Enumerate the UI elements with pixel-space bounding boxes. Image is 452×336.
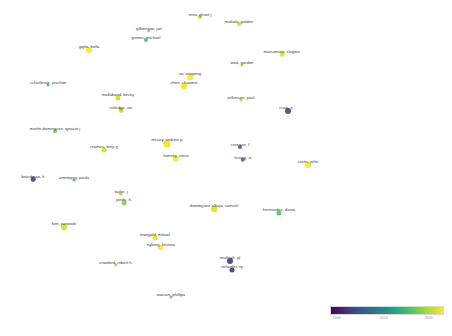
author-node[interactable] bbox=[86, 47, 92, 53]
author-node[interactable] bbox=[53, 129, 57, 133]
author-node[interactable] bbox=[47, 84, 50, 87]
author-node[interactable] bbox=[102, 148, 107, 153]
author-node[interactable] bbox=[31, 177, 36, 182]
network-map-canvas: rena, ghunt jmakala, goldengilbertson, j… bbox=[0, 0, 452, 336]
author-node[interactable] bbox=[239, 98, 242, 101]
author-node[interactable] bbox=[114, 263, 117, 266]
author-node[interactable] bbox=[170, 296, 173, 299]
author-node[interactable] bbox=[187, 74, 193, 80]
author-node[interactable] bbox=[153, 236, 158, 241]
author-node[interactable] bbox=[241, 158, 245, 162]
author-node[interactable] bbox=[237, 22, 241, 26]
colorbar-ticks: 200020102020 bbox=[330, 315, 442, 324]
author-node[interactable] bbox=[73, 179, 76, 182]
author-node[interactable] bbox=[211, 206, 217, 212]
colorbar-tick-label: 2000 bbox=[333, 316, 341, 320]
colorbar-gradient bbox=[330, 306, 444, 315]
author-node[interactable] bbox=[122, 201, 127, 206]
author-node[interactable] bbox=[147, 29, 150, 32]
author-node[interactable] bbox=[61, 224, 67, 230]
author-node[interactable] bbox=[280, 52, 285, 57]
author-node[interactable] bbox=[164, 141, 171, 148]
author-node[interactable] bbox=[144, 38, 148, 42]
colorbar-tick-label: 2010 bbox=[380, 316, 388, 320]
author-node[interactable] bbox=[198, 15, 202, 19]
author-node[interactable] bbox=[230, 268, 235, 273]
colorbar-tick-label: 2020 bbox=[425, 316, 433, 320]
author-node[interactable] bbox=[227, 258, 233, 264]
author-node[interactable] bbox=[115, 95, 120, 100]
author-node[interactable] bbox=[119, 192, 122, 195]
year-colorbar-legend: 200020102020 bbox=[330, 306, 442, 324]
author-node[interactable] bbox=[173, 156, 179, 162]
author-node[interactable] bbox=[305, 162, 311, 168]
author-node[interactable] bbox=[276, 210, 281, 215]
author-node[interactable] bbox=[181, 83, 187, 89]
author-node[interactable] bbox=[285, 108, 291, 114]
author-node[interactable] bbox=[119, 108, 124, 113]
author-node[interactable] bbox=[238, 145, 242, 149]
author-node[interactable] bbox=[158, 245, 163, 250]
author-node[interactable] bbox=[240, 63, 243, 66]
